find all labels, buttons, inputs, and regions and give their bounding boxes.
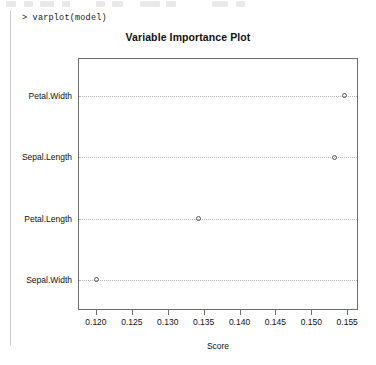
plot-title: Variable Importance Plot	[0, 31, 376, 43]
x-tick-mark	[311, 310, 312, 315]
x-tick-mark	[275, 310, 276, 315]
x-axis-title: Score	[78, 341, 358, 351]
gridline	[79, 280, 357, 282]
x-tick-label: 0.155	[337, 317, 358, 327]
x-tick-label: 0.140	[229, 317, 250, 327]
x-tick-label: 0.135	[193, 317, 214, 327]
data-point	[196, 216, 201, 221]
x-tick-mark	[240, 310, 241, 315]
y-axis-labels: Petal.WidthSepal.LengthPetal.LengthSepal…	[0, 58, 72, 310]
gridline	[79, 219, 357, 221]
x-tick-mark	[168, 310, 169, 315]
x-tick-label: 0.120	[85, 317, 106, 327]
y-axis-label: Petal.Length	[24, 214, 72, 224]
y-axis-label: Sepal.Length	[22, 152, 72, 162]
gridline	[79, 96, 357, 98]
x-tick-mark	[96, 310, 97, 315]
plot-box	[78, 58, 358, 310]
x-tick-label: 0.145	[265, 317, 286, 327]
x-tick-mark	[132, 310, 133, 315]
y-axis-label: Sepal.Width	[26, 275, 72, 285]
x-tick-mark	[347, 310, 348, 315]
x-tick-label: 0.130	[157, 317, 178, 327]
y-axis-label: Petal.Width	[29, 91, 72, 101]
x-tick-label: 0.150	[301, 317, 322, 327]
variable-importance-plot: Variable Importance Plot Petal.WidthSepa…	[0, 0, 376, 365]
data-point	[332, 155, 337, 160]
x-tick-label: 0.125	[121, 317, 142, 327]
gridline	[79, 157, 357, 159]
x-axis-ticks: 0.1200.1250.1300.1350.1400.1450.1500.155	[78, 310, 358, 340]
x-tick-mark	[204, 310, 205, 315]
